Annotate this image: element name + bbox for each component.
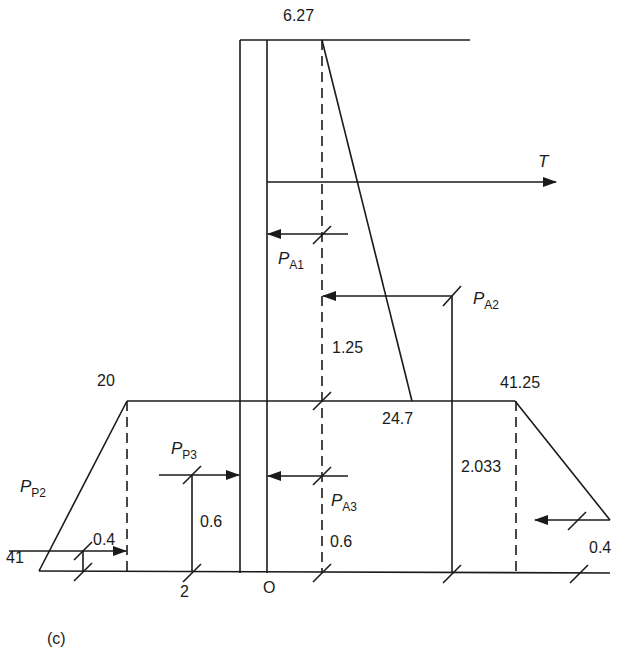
right-top-pressure-label: 41.25	[500, 375, 540, 391]
pa1-subscript: A1	[289, 258, 304, 272]
pp2-label: PP2	[20, 478, 46, 495]
pa2-label: PA2	[473, 290, 499, 307]
pa2-symbol: P	[473, 289, 484, 308]
pp3-subscript: P3	[182, 448, 197, 462]
pa3-symbol: P	[331, 491, 342, 510]
right-bottom-lever-label: 0.4	[589, 540, 611, 556]
pa1-label: PA1	[278, 250, 304, 267]
pa1-symbol: P	[278, 249, 289, 268]
pa3-subscript: A3	[342, 500, 357, 514]
top-pressure-label: 6.27	[283, 8, 314, 24]
figure-caption: (c)	[47, 631, 66, 647]
origin-label: O	[263, 580, 275, 596]
dredge-level-pressure-label: 24.7	[382, 411, 413, 427]
pa3-label: PA3	[331, 492, 357, 509]
pp2-subscript: P2	[31, 486, 46, 500]
pa3-lever-label: 0.6	[330, 534, 352, 550]
right-base-tick	[570, 565, 588, 583]
pp2-lever-label: 0.4	[93, 532, 115, 548]
pp3-symbol: P	[171, 439, 182, 458]
bottom-point-2-label: 2	[180, 584, 189, 600]
pp3-lever-label: 0.6	[200, 514, 222, 530]
left-top-pressure-label: 20	[97, 373, 115, 389]
pa2-lever-label: 1.25	[332, 340, 363, 356]
left-base-pressure-label: 41	[6, 550, 24, 566]
right-lever-label: 2.033	[461, 459, 501, 475]
pressure-diagram	[0, 0, 626, 664]
right-slope	[515, 401, 610, 520]
pa2-subscript: A2	[484, 298, 499, 312]
tie-force-label: T	[538, 153, 548, 170]
base-tick-o	[313, 564, 331, 582]
pp2-symbol: P	[20, 477, 31, 496]
pp3-label: PP3	[171, 440, 197, 457]
right-force-tick	[568, 512, 586, 530]
